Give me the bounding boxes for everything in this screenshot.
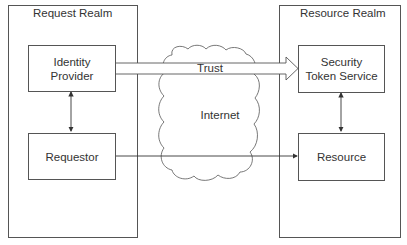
requestor-label: Requestor bbox=[45, 150, 98, 164]
resource-node: Resource bbox=[298, 133, 385, 181]
identity-provider-node: Identity Provider bbox=[28, 45, 116, 92]
identity-provider-label-line2: Provider bbox=[51, 69, 94, 83]
requestor-node: Requestor bbox=[28, 133, 116, 180]
trust-label: Trust bbox=[180, 61, 240, 75]
identity-provider-label-line1: Identity bbox=[53, 55, 90, 69]
security-token-service-node: Security Token Service bbox=[298, 45, 385, 93]
sts-label-line2: Token Service bbox=[305, 69, 377, 83]
diagram-connectors bbox=[0, 0, 407, 245]
resource-label: Resource bbox=[317, 150, 366, 164]
internet-label: Internet bbox=[190, 108, 250, 122]
request-realm-title: Request Realm bbox=[33, 7, 112, 19]
sts-label-line1: Security bbox=[321, 55, 363, 69]
resource-realm-title: Resource Realm bbox=[300, 7, 386, 19]
